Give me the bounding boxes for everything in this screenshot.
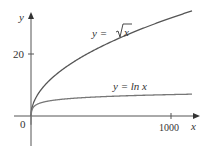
sqrt-annotation-prefix: y = — [91, 27, 107, 39]
sqrt-annotation: y = x — [91, 24, 132, 39]
y-axis-arrow-icon — [28, 12, 34, 19]
y-tick-label-20: 20 — [13, 48, 25, 60]
x-tick-label-1000: 1000 — [159, 122, 179, 133]
ln-curve — [31, 94, 192, 125]
x-axis-label: x — [190, 120, 196, 132]
y-axis-label: y — [18, 11, 24, 23]
origin-label: 0 — [20, 118, 26, 130]
sqrt-annotation-arg: x — [123, 26, 129, 38]
chart: y 20 0 1000 x y = x y = ln x — [0, 0, 206, 148]
x-axis-arrow-icon — [193, 113, 200, 119]
ln-annotation: y = ln x — [112, 80, 147, 92]
